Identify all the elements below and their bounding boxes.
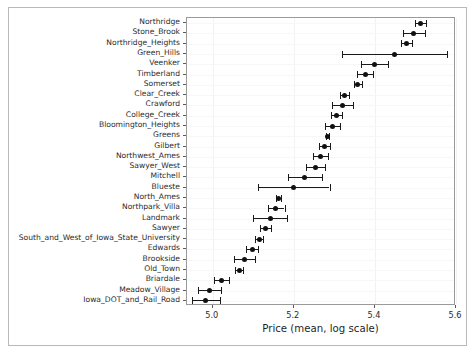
error-bar-cap-high (330, 143, 331, 150)
error-bar-cap-low (234, 256, 235, 263)
data-point-marker[interactable] (237, 268, 242, 273)
error-bar-cap-high (342, 112, 343, 119)
error-bar-cap-high (340, 123, 341, 130)
figure-canvas: NorthridgeStone_BrookNorthridge_HeightsG… (0, 0, 476, 354)
gridline-vertical (294, 18, 295, 304)
error-bar-cap-low (246, 246, 247, 253)
gridline-horizontal (187, 126, 454, 127)
error-bar-cap-high (258, 246, 259, 253)
error-bar-cap-low (253, 215, 254, 222)
error-bar-cap-high (325, 164, 326, 171)
error-bar-cap-low (403, 30, 404, 37)
data-point-marker[interactable] (268, 216, 273, 221)
data-point-marker[interactable] (207, 288, 212, 293)
gridline-horizontal (187, 270, 454, 271)
error-bar-cap-high (373, 71, 374, 78)
error-bar-cap-low (258, 184, 259, 191)
error-bar-cap-high (425, 30, 426, 37)
error-bar-cap-high (349, 92, 350, 99)
gridline-vertical (456, 18, 457, 304)
error-bar-cap-low (342, 51, 343, 58)
data-point-marker[interactable] (322, 144, 327, 149)
error-bar-cap-high (328, 153, 329, 160)
data-point-marker[interactable] (355, 82, 360, 87)
data-point-marker[interactable] (404, 41, 409, 46)
error-bar-cap-low (331, 112, 332, 119)
error-bar-cap-low (268, 205, 269, 212)
error-bar-cap-high (287, 215, 288, 222)
data-point-marker[interactable] (219, 278, 224, 283)
error-bar-cap-high (220, 297, 221, 304)
data-point-marker[interactable] (257, 237, 262, 242)
data-point-marker[interactable] (263, 226, 268, 231)
gridline-horizontal (187, 249, 454, 250)
data-point-marker[interactable] (276, 196, 281, 201)
data-point-marker[interactable] (363, 72, 368, 77)
data-point-marker[interactable] (392, 52, 397, 57)
gridline-horizontal (187, 116, 454, 117)
data-point-marker[interactable] (250, 247, 255, 252)
gridline-horizontal (187, 301, 454, 302)
error-bar-cap-low (235, 267, 236, 274)
data-point-marker[interactable] (418, 21, 423, 26)
error-bar-cap-low (357, 71, 358, 78)
error-bar-cap-high (271, 225, 272, 232)
plot-axes-box (186, 17, 455, 305)
x-axis-label: Price (mean, log scale) (186, 323, 455, 334)
gridline-horizontal (187, 260, 454, 261)
gridline-horizontal (187, 239, 454, 240)
error-bar-cap-high (412, 40, 413, 47)
error-bar-cap-low (313, 153, 314, 160)
error-bar-cap-low (260, 225, 261, 232)
error-bar-cap-low (192, 297, 193, 304)
data-point-marker[interactable] (330, 124, 335, 129)
gridline-horizontal (187, 136, 454, 137)
error-bar-cap-low (332, 102, 333, 109)
data-point-marker[interactable] (273, 206, 278, 211)
data-point-marker[interactable] (313, 165, 318, 170)
error-bar-cap-high (229, 277, 230, 284)
error-bar-cap-high (243, 267, 244, 274)
data-point-marker[interactable] (203, 298, 208, 303)
error-bar-cap-low (306, 164, 307, 171)
error-bar-cap-low (401, 40, 402, 47)
data-point-marker[interactable] (340, 103, 345, 108)
gridline-vertical (375, 18, 376, 304)
data-point-marker[interactable] (242, 257, 247, 262)
gridline-horizontal (187, 85, 454, 86)
error-bar-cap-low (319, 143, 320, 150)
data-point-marker[interactable] (318, 154, 323, 159)
gridline-horizontal (187, 95, 454, 96)
error-bar-cap-high (221, 287, 222, 294)
gridline-horizontal (187, 208, 454, 209)
data-point-marker[interactable] (291, 185, 296, 190)
data-point-marker[interactable] (342, 93, 347, 98)
error-bar-cap-high (447, 51, 448, 58)
error-bar-cap-high (353, 102, 354, 109)
data-point-marker[interactable] (372, 62, 377, 67)
gridline-horizontal (187, 291, 454, 292)
gridline-horizontal (187, 229, 454, 230)
error-bar-cap-low (340, 92, 341, 99)
gridline-horizontal (187, 219, 454, 220)
error-bar-cap-high (263, 236, 264, 243)
data-point-marker[interactable] (411, 31, 416, 36)
error-bar-cap-low (198, 287, 199, 294)
error-bar-cap-high (255, 256, 256, 263)
data-point-marker[interactable] (325, 134, 330, 139)
error-bar-cap-high (281, 195, 282, 202)
gridline-horizontal (187, 105, 454, 106)
data-point-marker[interactable] (302, 175, 307, 180)
gridline-vertical (213, 18, 214, 304)
error-bar-cap-high (388, 61, 389, 68)
error-bar-cap-high (285, 205, 286, 212)
data-point-marker[interactable] (334, 113, 339, 118)
error-bar-cap-low (214, 277, 215, 284)
error-bar-cap-high (426, 20, 427, 27)
error-bar-cap-low (415, 20, 416, 27)
error-bar-cap-low (288, 174, 289, 181)
error-bar-cap-low (361, 61, 362, 68)
gridline-horizontal (187, 44, 454, 45)
error-bar-cap-high (330, 184, 331, 191)
gridline-horizontal (187, 198, 454, 199)
